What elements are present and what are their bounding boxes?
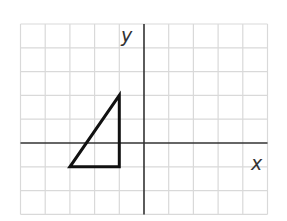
y-axis-label: y xyxy=(120,24,133,46)
x-axis-label: x xyxy=(250,152,263,174)
coordinate-plane: y x xyxy=(0,0,287,221)
